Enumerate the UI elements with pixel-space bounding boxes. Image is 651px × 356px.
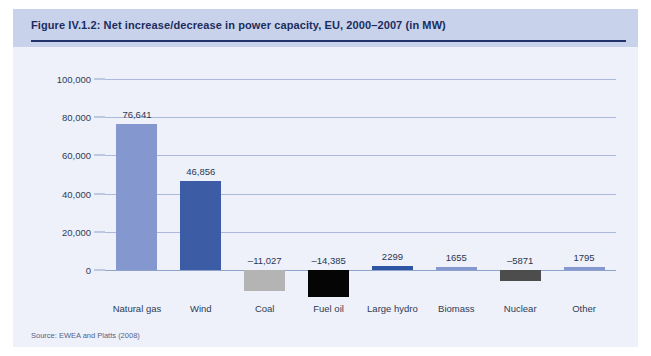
bar-value-label: –11,027 [248, 255, 282, 266]
source-note: Source: EWEA and Platts (2008) [31, 331, 140, 340]
bar-nuclear [500, 270, 541, 281]
bar-value-label: 2299 [382, 251, 403, 262]
x-axis-category-label: Nuclear [504, 303, 537, 314]
bar-value-label: 1655 [446, 252, 467, 263]
bar-value-label: –14,385 [311, 255, 345, 266]
bar-value-label: –5871 [507, 255, 533, 266]
bar-fuel-oil [308, 270, 349, 297]
bar-coal [244, 270, 285, 291]
x-axis-category-label: Biomass [438, 303, 474, 314]
x-axis-category-label: Fuel oil [313, 303, 344, 314]
x-axis: Natural gasWindCoalFuel oilLarge hydroBi… [13, 297, 638, 323]
chart-plot-region: 020,00040,00060,00080,000100,000 76,6414… [13, 47, 638, 347]
page-title: Figure IV.1.2: Net increase/decrease in … [31, 19, 446, 31]
bar-value-label: 76,641 [122, 109, 151, 120]
bar-value-label: 1795 [573, 252, 594, 263]
bar-wind [180, 181, 221, 270]
figure-panel: Figure IV.1.2: Net increase/decrease in … [13, 9, 638, 347]
bar-large-hydro [372, 266, 413, 270]
x-axis-category-label: Large hydro [367, 303, 418, 314]
bar-value-label: 46,856 [186, 166, 215, 177]
x-axis-category-label: Natural gas [113, 303, 162, 314]
x-axis-category-label: Coal [255, 303, 275, 314]
bar-natural-gas [116, 124, 157, 270]
header-divider [31, 40, 626, 42]
x-axis-category-label: Wind [190, 303, 212, 314]
bar-other [564, 267, 605, 270]
bar-biomass [436, 267, 477, 270]
figure-header-band: Figure IV.1.2: Net increase/decrease in … [13, 9, 638, 47]
x-axis-category-label: Other [572, 303, 596, 314]
chart-bars: 76,64146,856–11,027–14,38522991655–58711… [13, 47, 638, 297]
